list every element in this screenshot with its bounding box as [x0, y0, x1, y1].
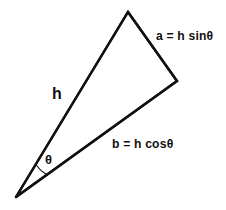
trigonometry-figure: h a = h sinθ b = h cosθ θ: [0, 0, 226, 210]
opposite-side-label: a = h sinθ: [156, 30, 213, 43]
adjacent-side-label: b = h cosθ: [112, 138, 173, 151]
theta-angle-label: θ: [45, 153, 52, 166]
hypotenuse-label: h: [52, 86, 62, 102]
opposite-edge: [128, 12, 177, 81]
hypotenuse-edge: [16, 12, 128, 197]
